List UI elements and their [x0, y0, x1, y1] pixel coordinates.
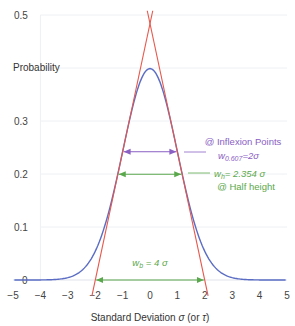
x-tick-label: −3: [62, 290, 74, 301]
w0607-formula: w0.607=2σ: [218, 150, 260, 162]
x-tick-label: 4: [257, 290, 263, 301]
half-height-label: @ Half height: [217, 181, 275, 192]
x-tick-label: −2: [89, 290, 101, 301]
gaussian-chart: 00.10.20.30.5 −5−4−3−2−1012345 Probabili…: [0, 0, 295, 326]
y-axis-title: Probability: [13, 62, 60, 73]
y-tick-label: 0.1: [14, 222, 28, 233]
left-tangent-line: [92, 11, 153, 296]
y-tick-label: 0.3: [14, 116, 28, 127]
wh-formula: wh= 2.354 σ: [214, 168, 266, 180]
x-axis-tick-labels: −5−4−3−2−1012345: [7, 290, 290, 301]
x-tick-label: −5: [7, 290, 19, 301]
grid-lines: [13, 15, 287, 280]
x-tick-label: −4: [35, 290, 47, 301]
x-tick-label: 0: [147, 290, 153, 301]
y-axis-tick-labels: 00.10.20.30.5: [14, 10, 28, 286]
y-tick-label: 0.2: [14, 169, 28, 180]
right-tangent-line: [147, 11, 208, 296]
inflexion-points-label: @ Inflexion Points: [205, 136, 282, 147]
x-tick-label: −1: [117, 290, 129, 301]
x-tick-label: 1: [175, 290, 181, 301]
wb-formula: wb = 4 σ: [132, 257, 169, 269]
x-axis-title: Standard Deviation σ (or τ): [91, 312, 210, 323]
x-tick-label: 5: [284, 290, 290, 301]
y-tick-label: 0.5: [14, 10, 28, 21]
x-tick-label: 3: [229, 290, 235, 301]
